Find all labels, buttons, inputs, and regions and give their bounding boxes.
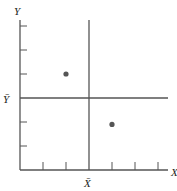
data-point: [63, 71, 68, 76]
x-axis-label: X: [170, 166, 177, 178]
data-point: [109, 122, 114, 127]
axes: [20, 20, 168, 170]
mean-reference-lines: [20, 20, 168, 170]
y-axis-label: Y: [14, 5, 22, 17]
scatter-chart: Y X Ȳ X̄: [0, 0, 177, 191]
y-mean-label: Ȳ: [3, 93, 11, 105]
x-mean-label: X̄: [83, 177, 92, 189]
